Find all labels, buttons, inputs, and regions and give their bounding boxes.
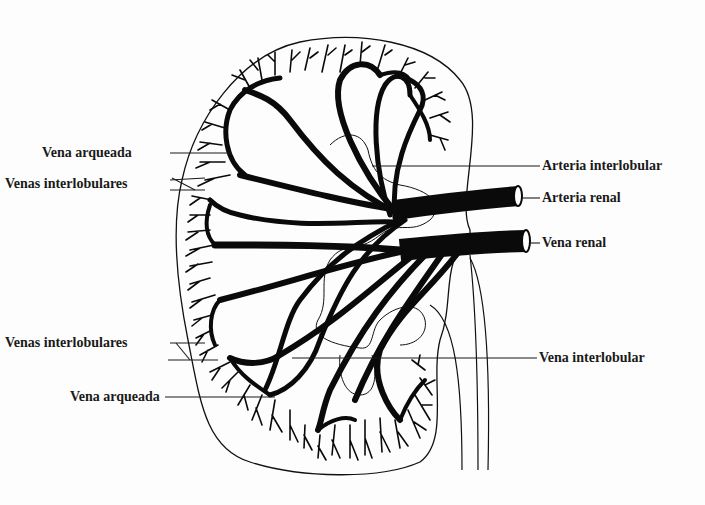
leader-venas-interlobulares-bottom-c [176, 343, 190, 360]
label-vena-interlobular: Vena interlobular [539, 350, 645, 366]
label-venas-interlobulares-bottom: Venas interlobulares [5, 335, 128, 351]
renal-vein-opening [522, 230, 530, 252]
kidney-illustration [0, 0, 705, 505]
renal-artery [395, 196, 518, 210]
label-vena-arqueada-top: Vena arqueada [42, 145, 132, 161]
ureter-inner [430, 305, 462, 470]
label-arteria-renal: Arteria renal [542, 190, 621, 206]
label-arteria-interlobular: Arteria interlobular [542, 158, 662, 174]
label-vena-renal: Vena renal [542, 235, 606, 251]
label-venas-interlobulares-top: Venas interlobulares [5, 176, 128, 192]
kidney-vasculature-diagram: Vena arqueada Venas interlobulares Venas… [0, 0, 705, 505]
renal-artery-opening [514, 186, 522, 206]
leader-venas-interlobulares-top-c [172, 178, 195, 190]
label-vena-arqueada-bottom: Vena arqueada [70, 389, 160, 405]
ureter [470, 255, 478, 470]
